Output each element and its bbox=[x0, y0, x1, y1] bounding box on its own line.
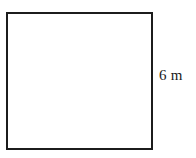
square-outline bbox=[7, 13, 152, 149]
geometry-figure: 6 m bbox=[0, 0, 196, 158]
side-length-label: 6 m bbox=[159, 68, 183, 83]
